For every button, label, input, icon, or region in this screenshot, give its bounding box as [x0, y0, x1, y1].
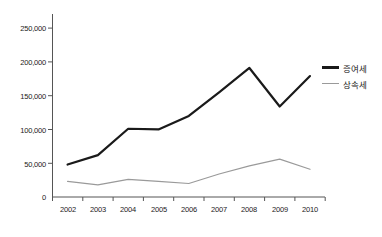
legend-item-sangsokse: 상속세 [322, 78, 367, 89]
series-line-sangsokse [68, 159, 310, 185]
chart-legend: 증여세 상속세 [322, 62, 367, 89]
y-tick-label-50000: 50,000 [6, 160, 46, 169]
x-tick-marks [53, 197, 326, 201]
x-tick-label-2002: 2002 [52, 205, 84, 214]
y-tick-label-0: 0 [6, 193, 46, 202]
y-tick-marks [48, 28, 53, 163]
legend-item-jeungyeose: 증여세 [322, 62, 367, 73]
x-tick-label-2006: 2006 [173, 205, 205, 214]
y-tick-label-100000: 100,000 [6, 126, 46, 135]
y-tick-label-150000: 150,000 [6, 92, 46, 101]
plot-area [0, 0, 382, 237]
y-tick-label-200000: 200,000 [6, 58, 46, 67]
x-tick-label-2004: 2004 [112, 205, 144, 214]
x-tick-label-2010: 2010 [294, 205, 326, 214]
x-tick-label-2008: 2008 [233, 205, 265, 214]
legend-label-sangsokse: 상속세 [343, 78, 367, 90]
line-chart: 250,000 200,000 150,000 100,000 50,000 0… [0, 0, 382, 237]
y-tick-label-250000: 250,000 [6, 24, 46, 33]
legend-swatch-icon-jeungyeose [322, 66, 339, 68]
x-tick-label-2007: 2007 [203, 205, 235, 214]
x-tick-label-2009: 2009 [264, 205, 296, 214]
series-line-jeungyeose [68, 68, 310, 165]
legend-label-jeungyeose: 증여세 [343, 62, 367, 74]
x-tick-label-2005: 2005 [143, 205, 175, 214]
legend-swatch-icon-sangsokse [322, 83, 339, 84]
x-tick-label-2003: 2003 [82, 205, 114, 214]
